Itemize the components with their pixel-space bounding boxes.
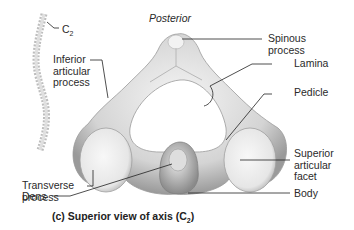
- label-body: Body: [294, 188, 318, 200]
- posterior-orientation-label: Posterior: [149, 12, 191, 24]
- label-inferior-articular-process: Inferior articular process: [53, 54, 90, 89]
- label-superior-articular-facet: Superior articular facet: [294, 148, 334, 183]
- figure-caption: (c) Superior view of axis (C2): [52, 210, 194, 224]
- axis-vertebra: [73, 34, 287, 195]
- label-spinous-process: Spinous process: [268, 33, 306, 56]
- label-pedicle: Pedicle: [294, 87, 328, 99]
- spine-c2-label: C2: [62, 24, 74, 40]
- label-lamina: Lamina: [294, 58, 328, 70]
- label-dens: Dens: [22, 191, 47, 203]
